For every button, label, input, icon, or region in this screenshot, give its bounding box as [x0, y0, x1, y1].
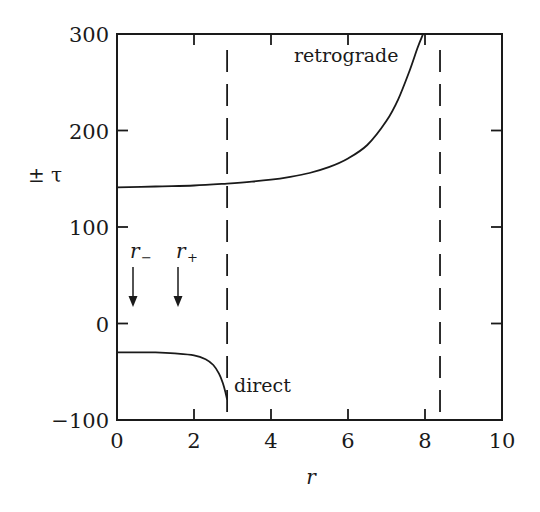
down-arrow-icon — [174, 296, 183, 307]
r-plus-label: r — [176, 239, 187, 263]
y-tick-label: 300 — [69, 23, 109, 47]
x-tick-label: 10 — [489, 429, 516, 453]
x-tick-label: 4 — [264, 429, 277, 453]
r-plus-marker: r + — [174, 239, 198, 307]
x-tick-label: 8 — [418, 429, 431, 453]
r-minus-label: r — [130, 239, 141, 263]
y-axis-label: ± τ — [28, 163, 62, 187]
r-minus-marker: r − — [129, 239, 152, 307]
y-tick-label: 200 — [69, 120, 109, 144]
y-tick-label: 100 — [69, 216, 109, 240]
x-tick-label: 6 — [341, 429, 354, 453]
down-arrow-icon — [129, 296, 138, 307]
curves — [117, 34, 423, 400]
r-plus-subscript: + — [187, 250, 198, 265]
x-tick-label: 2 — [187, 429, 200, 453]
x-tick-label: 0 — [110, 429, 123, 453]
asymptote-lines — [227, 50, 440, 420]
direct-label: direct — [234, 374, 291, 396]
retrograde-label: retrograde — [294, 44, 398, 66]
x-axis-label: r — [306, 465, 317, 489]
direct-curve — [117, 352, 227, 399]
y-tick-label: −100 — [51, 409, 109, 433]
x-axis-ticks: 0246810 — [110, 34, 515, 453]
y-axis-ticks: −1000100200300 — [51, 23, 502, 433]
y-tick-label: 0 — [96, 313, 109, 337]
r-minus-subscript: − — [141, 250, 152, 265]
plot-frame — [117, 34, 502, 420]
chart: 0246810 −1000100200300 r ± τ retrograde … — [0, 0, 540, 512]
